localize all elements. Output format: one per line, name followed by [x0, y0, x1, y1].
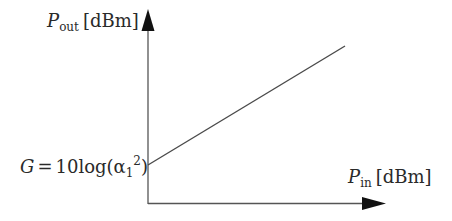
y-axis-unit: [dBm] — [83, 10, 139, 31]
x-axis-symbol: P — [347, 166, 361, 187]
gain-line — [148, 46, 345, 165]
intercept-label: G=10log(α12) — [20, 154, 148, 180]
x-axis-unit: [dBm] — [376, 166, 432, 187]
gain-characteristic-diagram: Pout[dBm] Pin[dBm] G=10log(α12) — [0, 0, 452, 221]
log-prefix: 10log( — [55, 156, 113, 177]
x-axis-label: Pin[dBm] — [347, 166, 432, 190]
alpha-subscript: 1 — [126, 166, 134, 180]
y-axis-subscript: out — [59, 20, 79, 34]
gain-symbol: G — [20, 156, 34, 177]
equals-sign: = — [37, 156, 52, 177]
log-suffix: ) — [141, 156, 148, 177]
x-axis-subscript: in — [360, 176, 372, 190]
y-axis-symbol: P — [46, 10, 60, 31]
y-axis-arrowhead-icon — [142, 9, 155, 31]
alpha-superscript: 2 — [133, 154, 141, 168]
y-axis-label: Pout[dBm] — [46, 10, 139, 34]
x-axis-arrowhead-icon — [362, 197, 386, 210]
alpha-symbol: α — [114, 156, 126, 177]
